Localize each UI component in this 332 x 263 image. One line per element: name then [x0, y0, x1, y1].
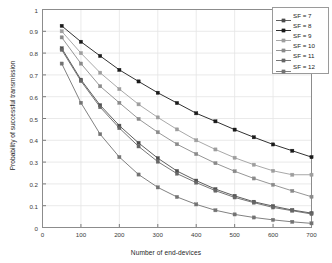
legend-item-sf-7[interactable]: SF = 7: [275, 10, 327, 20]
chart-legend[interactable]: SF = 7SF = 8SF = 9SF = 10SF = 11SF = 12: [272, 7, 329, 74]
x-tick-label: 200: [114, 231, 124, 238]
x-tick-label: 600: [268, 231, 278, 238]
y-tick-label: 0.6: [29, 93, 38, 100]
legend-item-sf-9[interactable]: SF = 9: [275, 30, 327, 40]
legend-marker-icon: [275, 41, 292, 50]
y-tick-label: 0.7: [29, 71, 38, 78]
legend-label: SF = 7: [292, 12, 311, 19]
y-tick-label: 0.1: [29, 202, 38, 209]
legend-item-sf-12[interactable]: SF = 12: [275, 61, 327, 71]
legend-label: SF = 8: [292, 22, 311, 29]
legend-label: SF = 10: [292, 42, 315, 49]
chart-figure: 0100200300400500600700 00.10.20.30.40.50…: [0, 0, 332, 263]
legend-marker-icon: [275, 21, 292, 30]
series-sf-12: [60, 62, 313, 225]
x-tick-label: 700: [306, 231, 316, 238]
legend-label: SF = 12: [292, 63, 315, 70]
legend-label: SF = 9: [292, 32, 311, 39]
legend-marker-icon: [275, 11, 292, 20]
x-tick-label: 500: [229, 231, 239, 238]
y-axis-label: Probability of successful transmission: [9, 51, 16, 181]
x-axis-label: Number of end-devices: [0, 249, 332, 256]
y-tick-label: 0.3: [29, 159, 38, 166]
y-tick-label: 1: [35, 6, 38, 13]
x-tick-label: 100: [76, 231, 86, 238]
x-tick-label: 0: [41, 231, 44, 238]
x-tick-label: 400: [191, 231, 201, 238]
legend-item-sf-10[interactable]: SF = 10: [275, 41, 327, 51]
y-tick-label: 0: [35, 224, 38, 231]
x-tick-label: 300: [153, 231, 163, 238]
legend-marker-icon: [275, 31, 292, 40]
y-tick-label: 0.8: [29, 50, 38, 57]
legend-item-sf-8[interactable]: SF = 8: [275, 20, 327, 30]
legend-item-sf-11[interactable]: SF = 11: [275, 51, 327, 61]
legend-label: SF = 11: [292, 52, 314, 59]
legend-marker-icon: [275, 62, 292, 71]
y-tick-label: 0.4: [29, 137, 38, 144]
y-tick-label: 0.2: [29, 180, 38, 187]
y-tick-label: 0.9: [29, 28, 38, 35]
legend-marker-icon: [275, 51, 292, 60]
y-tick-label: 0.5: [29, 115, 38, 122]
